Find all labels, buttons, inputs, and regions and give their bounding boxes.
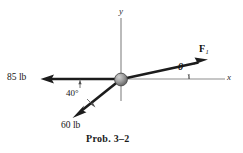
particle-node — [115, 73, 128, 86]
force-diagram-canvas — [0, 0, 243, 153]
force-f1-label: F1 — [199, 44, 208, 54]
force-f1-subscript: 1 — [206, 48, 209, 55]
force-f1-shaft — [122, 63, 199, 80]
force-60lb-shaft — [81, 80, 121, 112]
theta-angle-label: θ — [178, 62, 183, 72]
force-f1-arrowhead — [193, 58, 208, 65]
angle-40-label: 40° — [66, 89, 79, 98]
x-axis-label: x — [227, 73, 231, 82]
force-f1-symbol: F — [199, 43, 205, 54]
figure-root: y x 85 lb 60 lb F1 θ 40° Prob. 3–2 — [0, 0, 243, 153]
force-60lb-label: 60 lb — [61, 121, 80, 131]
y-axis-label: y — [119, 7, 123, 16]
angle40-upper-arrowhead — [78, 81, 81, 85]
force-85lb-label: 85 lb — [7, 73, 26, 83]
force-vector-f1 — [122, 58, 208, 80]
figure-caption: Prob. 3–2 — [86, 134, 130, 144]
